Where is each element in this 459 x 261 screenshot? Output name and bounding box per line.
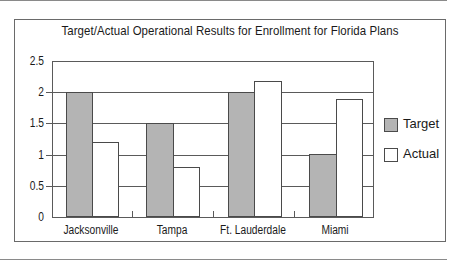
x-tick [132,211,133,217]
bottom-rule [0,259,447,260]
y-tick-label: 2.5 [19,54,45,68]
x-label-miami: Miami [301,223,369,237]
x-label-ft-lauderdale: Ft. Lauderdale [219,223,287,237]
chart-title: Target/Actual Operational Results for En… [40,23,420,38]
y-tick-label: 0.5 [19,179,45,193]
x-label-tampa: Tampa [138,223,206,237]
legend-swatch-actual [384,148,398,162]
bar-target-ft-lauderdale [228,92,255,217]
top-rule [0,0,447,1]
gridline [53,92,373,93]
bar-actual-miami [336,99,363,217]
bar-actual-ft-lauderdale [254,81,282,217]
bar-actual-tampa [173,167,200,217]
bar-actual-jacksonville [92,142,119,217]
y-tick-label: 1 [19,148,45,162]
bar-target-miami [309,154,337,217]
legend-swatch-target [384,118,398,132]
x-tick [294,211,295,217]
x-label-jacksonville: Jacksonville [57,223,125,237]
gridline [53,123,373,124]
y-tick-label: 0 [19,210,45,224]
legend-label-actual: Actual [403,146,439,161]
bar-target-jacksonville [66,92,93,217]
legend-label-target: Target [403,116,439,131]
x-tick [213,211,214,217]
bar-target-tampa [146,123,174,217]
y-tick-label: 1.5 [19,116,45,130]
y-tick-label: 2 [19,85,45,99]
plot-area [52,61,374,218]
